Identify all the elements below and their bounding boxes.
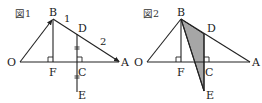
point-label-A: A: [251, 56, 261, 69]
right-angle-C-icon: [204, 57, 209, 62]
point-label-E: E: [206, 89, 214, 102]
figure-2-title: 図2: [143, 8, 159, 19]
right-angle-F-icon: [176, 57, 181, 62]
point-label-C: C: [205, 66, 213, 79]
figure-1-title: 図1: [15, 8, 31, 19]
point-label-F: F: [49, 66, 57, 79]
segment-OB: [147, 19, 181, 62]
segment-OB: [20, 20, 52, 62]
point-label-B: B: [49, 6, 57, 19]
point-label-A: A: [120, 56, 130, 69]
point-label-D: D: [207, 22, 216, 35]
point-label-B: B: [177, 6, 185, 19]
point-label-O: O: [7, 56, 16, 69]
segment-label-BD: 1: [64, 13, 70, 24]
segment-label-DA: 2: [100, 36, 106, 47]
right-angle-C-icon: [77, 57, 82, 62]
point-label-O: O: [134, 56, 143, 69]
point-label-C: C: [78, 66, 86, 79]
right-angle-F-icon: [48, 57, 53, 62]
point-label-E: E: [78, 89, 86, 102]
point-label-D: D: [78, 22, 87, 35]
point-label-F: F: [177, 66, 185, 79]
figure-1: 図1 B D O F C A E 1 2: [7, 6, 130, 102]
geometry-diagram: 図1 B D O F C A E 1 2 図2: [0, 0, 262, 103]
figure-2: 図2 B D O F C A E: [134, 6, 261, 102]
